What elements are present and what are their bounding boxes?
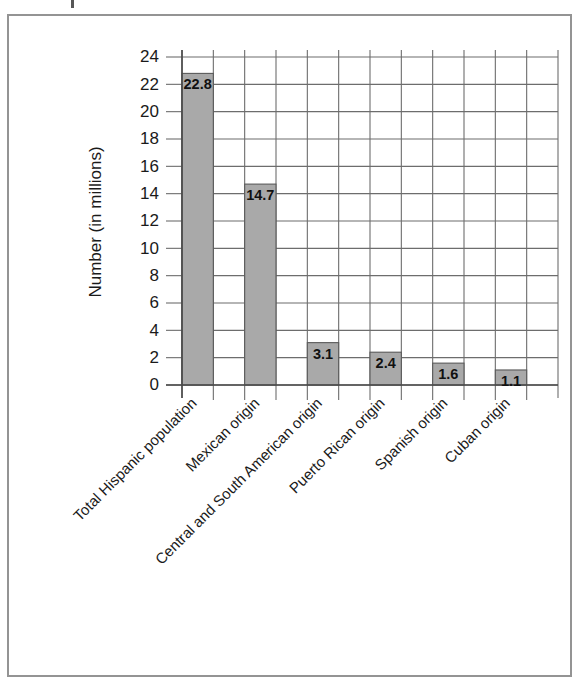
ytick-label-4: 4 [150,321,159,340]
bar-1[interactable] [245,184,276,385]
ytick-label-10: 10 [140,239,159,258]
bar-value-label-3: 2.4 [376,355,396,371]
bar-series [182,73,527,385]
ytick-label-20: 20 [140,102,159,121]
ytick-label-8: 8 [150,266,159,285]
ytick-label-2: 2 [150,348,159,367]
ytick-label-22: 22 [140,75,159,94]
ytick-label-0: 0 [150,375,159,394]
bar-value-label-0: 22.8 [184,76,212,92]
bar-0[interactable] [182,73,213,385]
bar-value-label-5: 1.1 [501,373,521,389]
bar-value-labels: 22.814.73.12.41.61.1 [184,76,522,389]
ytick-label-12: 12 [140,211,159,230]
ytick-label-14: 14 [140,184,159,203]
category-label-0: Total Hispanic population [70,394,200,524]
bar-chart: 242220181614121086420 22.814.73.12.41.61… [0,0,586,685]
y-axis-tick-labels: 242220181614121086420 [140,47,159,394]
bar-value-label-2: 3.1 [313,346,333,362]
bar-value-label-4: 1.6 [438,366,458,382]
ytick-label-18: 18 [140,129,159,148]
category-label-5: Cuban origin [441,394,513,466]
y-axis-tick-marks [166,57,182,385]
bar-value-label-1: 14.7 [246,187,274,203]
vertical-gridlines [182,50,558,400]
ytick-label-24: 24 [140,47,159,66]
ytick-label-16: 16 [140,157,159,176]
ytick-label-6: 6 [150,293,159,312]
y-axis-title: Number (in millions) [86,146,105,297]
x-axis-category-labels: Total Hispanic populationMexican originC… [70,394,513,568]
